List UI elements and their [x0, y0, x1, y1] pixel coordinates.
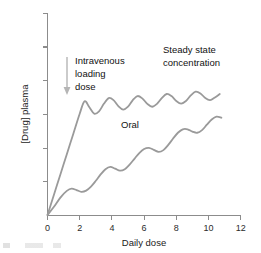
steady-label-line1: Steady state — [163, 44, 216, 55]
x-tick-label-2: 2 — [77, 223, 82, 233]
x-tick-label-0: 0 — [45, 223, 50, 233]
oral-label: Oral — [121, 119, 139, 130]
x-axis-title: Daily dose — [122, 237, 166, 248]
figure-caption-fragment — [3, 243, 71, 248]
iv-label-line1: Intravenous — [75, 55, 125, 66]
x-tick-label-8: 8 — [174, 223, 179, 233]
x-tick-label-4: 4 — [109, 223, 114, 233]
iv-label-line2: loading — [75, 68, 106, 79]
x-tick-label-10: 10 — [203, 223, 213, 233]
iv-label-line3: dose — [75, 81, 96, 92]
steady-label-line2: concentration — [163, 57, 220, 68]
drug-plasma-line-chart: 0 2 4 6 8 10 12 Daily dose [Drug] plasma… — [0, 0, 261, 253]
x-tick-label-6: 6 — [142, 223, 147, 233]
x-tick-label-12: 12 — [236, 223, 246, 233]
y-axis-title: [Drug] plasma — [19, 84, 30, 144]
figure-root: 0 2 4 6 8 10 12 Daily dose [Drug] plasma… — [0, 0, 261, 253]
